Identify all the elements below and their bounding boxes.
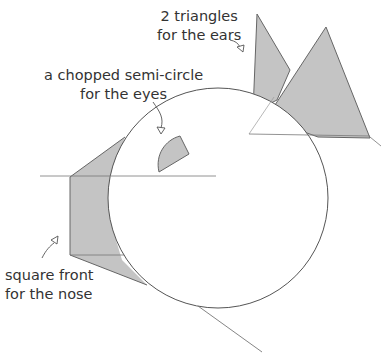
nose-label-line2: for the nose bbox=[5, 285, 94, 304]
ears-arrowhead bbox=[237, 45, 244, 52]
ears-label: 2 triangles for the ears bbox=[157, 7, 241, 45]
ears-label-line2: for the ears bbox=[157, 26, 241, 45]
nose-label-line1: square front bbox=[5, 266, 94, 285]
eyes-label-line1: a chopped semi-circle bbox=[44, 66, 203, 85]
ear-guide-extension bbox=[370, 137, 381, 146]
head-circle bbox=[108, 88, 328, 308]
nose-arrowhead bbox=[51, 236, 58, 244]
eyes-label-line2: for the eyes bbox=[44, 85, 203, 104]
nose-arrow bbox=[42, 243, 54, 258]
nose-label: square front for the nose bbox=[5, 266, 94, 304]
diagonal-guide bbox=[198, 306, 262, 352]
eyes-label: a chopped semi-circle for the eyes bbox=[44, 66, 203, 104]
ears-label-line1: 2 triangles bbox=[157, 7, 241, 26]
